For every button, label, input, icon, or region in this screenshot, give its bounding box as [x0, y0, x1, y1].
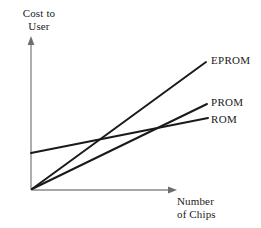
series-label-eprom: EPROM — [211, 54, 250, 67]
series-label-prom: PROM — [211, 96, 243, 109]
series-line-prom — [32, 104, 207, 189]
series-label-rom: ROM — [211, 113, 237, 126]
x-axis-arrowhead — [168, 187, 177, 194]
y-axis-arrowhead — [28, 36, 35, 45]
y-axis-title: Cost toUser — [12, 7, 66, 33]
y-axis-title-line2: User — [28, 20, 49, 32]
series-line-eprom — [32, 62, 206, 189]
x-axis-title: Numberof Chips — [177, 195, 257, 221]
y-axis-title-line1: Cost to — [23, 7, 56, 19]
chart-figure: Cost toUser Numberof Chips EPROM PROM RO… — [0, 0, 261, 228]
series-line-rom — [31, 118, 208, 153]
x-axis-title-line1: Number — [177, 195, 214, 207]
x-axis-title-line2: of Chips — [177, 208, 216, 220]
